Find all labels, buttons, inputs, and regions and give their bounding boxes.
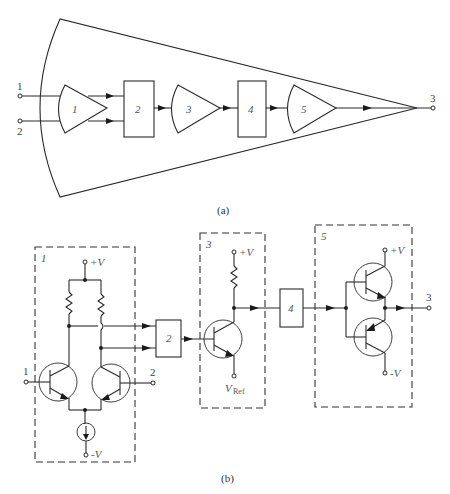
- input-1-label-b: 1: [23, 365, 29, 377]
- transistor-q3: [204, 308, 242, 374]
- transistor-q2: [92, 348, 130, 410]
- output-terminal-3: 3: [430, 92, 436, 110]
- block-4-label: 4: [248, 103, 254, 115]
- stage-3-common-emitter: 3 +V V Ref: [200, 233, 280, 408]
- stage-3-vplus-label: +V: [239, 246, 254, 258]
- block-4: 4: [238, 81, 266, 137]
- block-2: 2: [124, 81, 154, 137]
- block-diagram: 1 2 1 2 3: [0, 0, 450, 494]
- stage-3-label: 3: [205, 238, 212, 250]
- current-source: [77, 423, 95, 441]
- amplifier-5: 5: [288, 85, 337, 133]
- caption-b: (b): [221, 472, 234, 485]
- block-2-b-label: 2: [166, 332, 172, 344]
- stage-5-push-pull: 5 +V 3: [315, 225, 432, 407]
- stage-3-boundary: [200, 233, 265, 408]
- stage-1-label: 1: [41, 252, 47, 264]
- stage-1-vplus-label: +V: [90, 256, 105, 268]
- amplifier-1-label: 1: [72, 103, 78, 115]
- block-4-b: 4: [280, 289, 303, 327]
- stage-5-vplus-label: +V: [390, 244, 405, 256]
- transistor-q1: [39, 326, 77, 410]
- resistor-right: [98, 294, 104, 316]
- stage-5-label: 5: [321, 230, 327, 242]
- amplifier-3: 3: [172, 85, 221, 133]
- input-terminal-2: 2: [17, 119, 60, 137]
- transistor-q4-npn: [354, 263, 392, 308]
- input-1-label: 1: [17, 80, 23, 92]
- block-2-b: 2: [156, 320, 181, 357]
- input-terminal-1: 1: [17, 80, 60, 98]
- block-4-b-label: 4: [288, 302, 294, 314]
- resistor-collector: [231, 266, 237, 288]
- stage-5-vminus-label: -V: [390, 367, 402, 379]
- transistor-q5-pnp: [354, 308, 392, 371]
- amplifier-5-label: 5: [301, 103, 307, 115]
- caption-a: (a): [217, 204, 230, 217]
- block-2-label: 2: [135, 103, 141, 115]
- stage-1-differential-pair: 1 +V: [23, 247, 156, 462]
- resistor-left: [66, 292, 72, 314]
- stage-1-vminus-label: -V: [91, 448, 103, 460]
- part-b-schematic: 1 +V: [23, 225, 432, 485]
- vref-subscript: Ref: [233, 387, 245, 396]
- vref-label: V: [225, 382, 233, 394]
- output-3-label: 3: [430, 92, 436, 104]
- part-a-diagram: 1 2 1 2 3: [17, 19, 436, 217]
- amplifier-3-label: 3: [185, 103, 192, 115]
- input-2-label: 2: [17, 125, 23, 137]
- output-3-label-b: 3: [426, 291, 432, 303]
- input-2-label-b: 2: [150, 366, 156, 378]
- amplifier-1: 1: [59, 85, 108, 133]
